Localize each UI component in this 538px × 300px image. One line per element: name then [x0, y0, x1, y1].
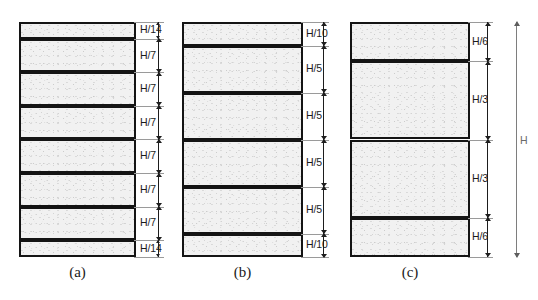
band: [182, 234, 303, 258]
band: [350, 22, 470, 61]
band: [182, 140, 303, 187]
dimension-label: H/7: [140, 149, 156, 161]
band: [182, 46, 303, 93]
band: [19, 207, 136, 241]
band: [182, 187, 303, 234]
dimension-segment: [323, 93, 324, 140]
band: [350, 140, 470, 218]
band: [350, 61, 470, 139]
band: [19, 240, 136, 257]
dimension-label: H/3: [472, 93, 488, 105]
dimension-label: H/10: [306, 27, 328, 39]
dimension-label: H/10: [306, 238, 328, 250]
band: [350, 218, 470, 257]
panel-a: [19, 22, 136, 257]
band: [19, 106, 136, 140]
dimension-label: H/7: [140, 82, 156, 94]
dimension-segment: [158, 207, 159, 241]
band: [19, 173, 136, 207]
panel-b: [182, 22, 303, 257]
dimension-label: H/6: [472, 35, 488, 47]
dimension-segment: [158, 72, 159, 106]
dimension-segment: [158, 173, 159, 207]
dimension-segment: [158, 139, 159, 173]
dimension-label: H/5: [306, 62, 322, 74]
dimension-label: H/7: [140, 49, 156, 61]
dimension-segment: [323, 187, 324, 234]
caption-b: (b): [182, 264, 303, 281]
column-c: [350, 22, 470, 257]
dimension-segment: [158, 106, 159, 140]
dimension-label: H/5: [306, 156, 322, 168]
dimension-label: H/7: [140, 116, 156, 128]
dimension-label: H/3: [472, 172, 488, 184]
band: [182, 22, 303, 46]
dimension-segment: [323, 140, 324, 187]
dimension-label: H/7: [140, 183, 156, 195]
dimension-label: H/14: [140, 242, 162, 254]
overall-height-label: H: [518, 132, 530, 148]
dimension-label: H/7: [140, 216, 156, 228]
dimension-label: H/5: [306, 109, 322, 121]
caption-a: (a): [19, 264, 136, 281]
figure-root: H/14H/7H/7H/7H/7H/7H/7H/14(a)H/10H/5H/5H…: [0, 0, 538, 300]
dimension-label: H/5: [306, 203, 322, 215]
dimension-label: H/6: [472, 230, 488, 242]
band: [182, 93, 303, 140]
band: [19, 22, 136, 39]
overall-height-dimension: [516, 22, 517, 257]
panel-c: [350, 22, 470, 257]
column-b: [182, 22, 303, 257]
dimension-segment: [323, 46, 324, 93]
caption-c: (c): [350, 264, 470, 281]
dimension-label: H/14: [140, 23, 162, 35]
band: [19, 72, 136, 106]
band: [19, 139, 136, 173]
dimension-segment: [158, 39, 159, 73]
column-a: [19, 22, 136, 257]
band: [19, 39, 136, 73]
